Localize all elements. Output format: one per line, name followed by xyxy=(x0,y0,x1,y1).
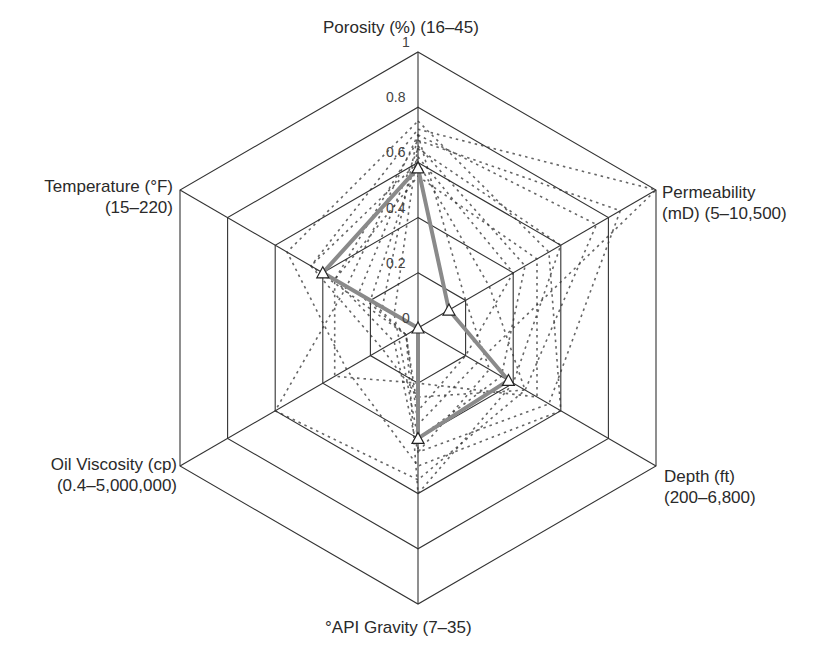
axis-label-temperature: Temperature (°F) (15–220) xyxy=(18,176,173,218)
axis-range: (15–220) xyxy=(18,197,173,218)
axis-label-porosity: Porosity (%) (16–45) xyxy=(323,17,479,38)
axis-name: Permeability xyxy=(662,182,787,203)
triangle-marker-icon xyxy=(443,304,455,315)
radial-tick-label: 0 xyxy=(402,310,410,326)
radial-tick-label: 0.2 xyxy=(386,255,405,271)
axis-label-permeability: Permeability (mD) (5–10,500) xyxy=(662,182,787,224)
series-dotted xyxy=(394,146,525,439)
axis-label-api-gravity: °API Gravity (7–35) xyxy=(325,617,472,638)
radial-tick-label: 0.6 xyxy=(386,144,405,160)
radial-tick-label: 1 xyxy=(402,34,410,50)
axis-range: (mD) (5–10,500) xyxy=(662,203,787,224)
axis-spoke xyxy=(180,328,418,466)
radial-tick-label: 0.8 xyxy=(386,89,405,105)
axis-range: (7–35) xyxy=(423,618,472,637)
radial-tick-label: 0.4 xyxy=(386,200,405,216)
axis-name: °API Gravity xyxy=(325,618,418,637)
axis-label-oil-viscosity: Oil Viscosity (cp) (0.4–5,000,000) xyxy=(22,454,177,496)
axis-name: Temperature (°F) xyxy=(18,176,173,197)
axis-label-depth: Depth (ft) (200–6,800) xyxy=(664,466,756,508)
axis-range: (16–45) xyxy=(420,18,479,37)
axis-range: (200–6,800) xyxy=(664,487,756,508)
radar-chart xyxy=(0,0,827,656)
axis-name: Oil Viscosity (cp) xyxy=(22,454,177,475)
axis-range: (0.4–5,000,000) xyxy=(22,475,177,496)
axis-name: Depth (ft) xyxy=(664,466,756,487)
